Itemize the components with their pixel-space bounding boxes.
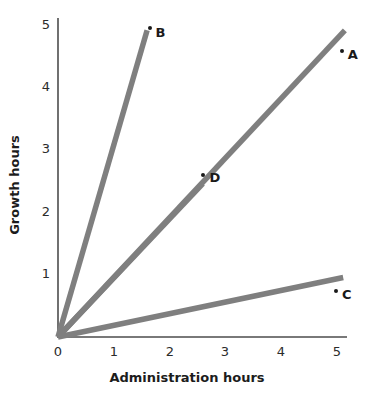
x-tick-2: 2 (166, 345, 174, 358)
x-tick-0: 0 (54, 345, 62, 358)
x-tick-1: 1 (110, 345, 118, 358)
point-label-a: A (348, 48, 358, 61)
point-marker-icon (340, 49, 344, 53)
point-label-c: C (342, 288, 352, 301)
point-label-d: D (210, 171, 221, 184)
y-tick-1: 1 (42, 267, 50, 280)
y-tick-3: 3 (42, 142, 50, 155)
y-tick-2: 2 (42, 205, 50, 218)
x-tick-4: 4 (277, 345, 285, 358)
y-tick-4: 4 (42, 80, 50, 93)
x-tick-3: 3 (221, 345, 229, 358)
y-axis-title: Growth hours (8, 135, 21, 235)
series-lines (58, 30, 345, 337)
x-tick-5: 5 (333, 345, 341, 358)
series-line-c (58, 278, 343, 337)
point-label-b: B (155, 26, 165, 39)
x-axis-title: Administration hours (109, 371, 264, 384)
y-tick-5: 5 (42, 18, 50, 31)
growth-vs-administration-chart: 1 2 3 4 5 0 1 2 3 4 5 Administration hou… (0, 0, 374, 407)
point-marker-icon (334, 289, 338, 293)
